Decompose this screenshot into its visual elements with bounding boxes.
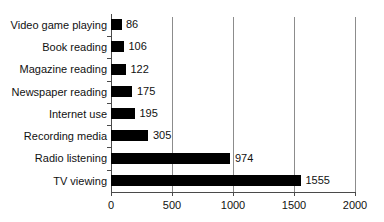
bar-value-label: 122 (131, 61, 149, 78)
bar-value-label: 195 (140, 105, 158, 122)
category-label-text: TV viewing (53, 175, 107, 187)
plot-area: 86 106 122 175 195 305 974 1555 (111, 14, 355, 192)
x-axis-tick-label-1500: 1500 (282, 198, 306, 213)
category-label-0: Video game playing (0, 17, 107, 34)
category-label-3: Newspaper reading (0, 84, 107, 101)
bar (111, 130, 148, 141)
category-label-7: TV viewing (0, 173, 107, 190)
bar (111, 153, 230, 164)
bar-row-recording-media: 305 (111, 125, 355, 147)
category-label-text: Internet use (49, 108, 107, 120)
bar-row-newspaper-reading: 175 (111, 81, 355, 103)
category-label-1: Book reading (0, 39, 107, 56)
bar (111, 19, 122, 30)
category-label-text: Recording media (24, 130, 107, 142)
category-label-5: Recording media (0, 128, 107, 145)
bar (111, 64, 126, 75)
x-axis-tick (233, 192, 234, 196)
category-label-text: Radio listening (35, 152, 107, 164)
bar-row-tv-viewing: 1555 (111, 170, 355, 192)
bar-value-label: 175 (137, 83, 155, 100)
x-axis-tick-label-0: 0 (108, 198, 114, 213)
bar (111, 41, 124, 52)
x-axis-tick-label-500: 500 (163, 198, 181, 213)
bar-row-book-reading: 106 (111, 36, 355, 58)
category-label-text: Video game playing (11, 19, 107, 31)
bar-row-internet-use: 195 (111, 103, 355, 125)
x-axis-tick-label-1000: 1000 (221, 198, 245, 213)
category-label-text: Book reading (42, 41, 107, 53)
bar-chart: Video game playing Book reading Magazine… (0, 0, 384, 222)
category-label-2: Magazine reading (0, 61, 107, 78)
bar (111, 86, 132, 97)
bar (111, 108, 135, 119)
x-axis-tick (294, 192, 295, 196)
x-axis-tick (355, 192, 356, 196)
x-axis-tick (111, 192, 112, 196)
category-label-4: Internet use (0, 106, 107, 123)
bar-value-label: 1555 (306, 172, 330, 189)
category-label-text: Magazine reading (20, 63, 107, 75)
category-label-text: Newspaper reading (12, 86, 107, 98)
bar-value-label: 974 (235, 150, 253, 167)
bar-row-radio-listening: 974 (111, 148, 355, 170)
bar-row-magazine-reading: 122 (111, 59, 355, 81)
category-label-6: Radio listening (0, 150, 107, 167)
x-axis-tick (172, 192, 173, 196)
gridline-2000 (355, 17, 356, 192)
bar-row-video-game-playing: 86 (111, 14, 355, 36)
bar (111, 175, 301, 186)
bar-value-label: 106 (129, 38, 147, 55)
bar-value-label: 305 (153, 127, 171, 144)
bar-value-label: 86 (126, 16, 138, 33)
x-axis-tick-label-2000: 2000 (343, 198, 367, 213)
